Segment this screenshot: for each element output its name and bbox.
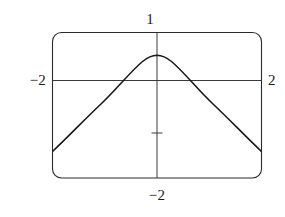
- graph-canvas: [0, 0, 285, 217]
- axis-label-left: −2: [30, 73, 46, 88]
- axis-label-right: 2: [268, 73, 276, 88]
- axis-label-bottom: −2: [149, 188, 165, 203]
- axis-label-top: 1: [146, 12, 154, 27]
- plot-screenshot: 1 −2 2 −2: [0, 0, 285, 217]
